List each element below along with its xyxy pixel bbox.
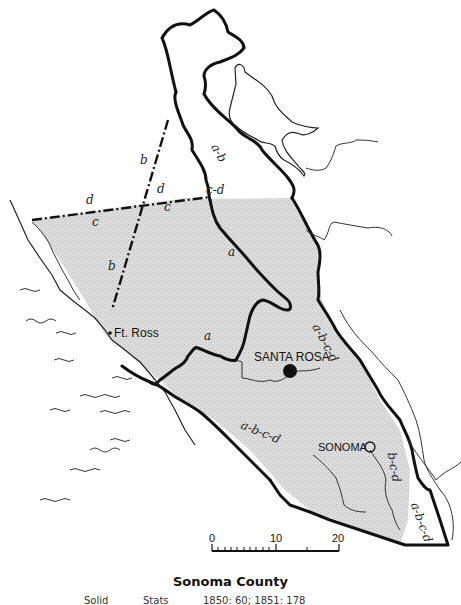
north-boundary-west (175, 92, 210, 200)
label-d-mid: d (157, 182, 165, 196)
cache-creek (306, 140, 378, 170)
caption-col3: 1850: 60; 1851: 178 (203, 595, 305, 605)
scale-tick-10: 10 (270, 532, 282, 544)
label-c-left: c (92, 215, 99, 229)
scale-tick-0: 0 (209, 532, 215, 544)
ft-ross-label: Ft. Ross (114, 326, 159, 340)
clear-lake (229, 65, 318, 176)
label-a-b-c-d-corner: a-b-c-d (408, 500, 435, 544)
scale-bar: 0 10 20 (209, 532, 344, 551)
label-b-lower: b (108, 259, 116, 273)
ft-ross-marker (108, 331, 112, 335)
santa-rosa-marker (283, 364, 297, 378)
sonoma-county-map: SANTA ROSA SONOMA Ft. Ross a-b c-d d c d… (0, 0, 461, 605)
label-a-inner: a (228, 245, 235, 259)
label-a-west: a (204, 329, 211, 343)
label-c-d-top: c-d (206, 183, 225, 197)
sonoma-label: SONOMA (318, 441, 368, 453)
label-c-mid: c (164, 200, 171, 214)
label-a-b-north: a-b (208, 141, 230, 164)
north-boundary-loop (162, 10, 294, 198)
caption-col2: Stats (143, 595, 169, 605)
label-b-upper: b (140, 153, 148, 167)
map-caption: Solid Stats 1850: 60; 1851: 178 (0, 595, 461, 605)
caption-col1: Solid (84, 595, 108, 605)
map-title: Sonoma County (0, 574, 461, 589)
scale-tick-20: 20 (332, 532, 344, 544)
santa-rosa-label: SANTA ROSA (254, 350, 330, 364)
county-shaded-area (32, 198, 410, 545)
putah-creek (306, 222, 392, 240)
label-d-left: d (86, 193, 94, 207)
